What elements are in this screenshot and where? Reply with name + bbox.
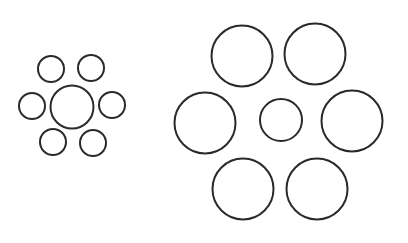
center-circle [51, 86, 94, 129]
surround-circle [38, 56, 64, 82]
large-surround-group [175, 24, 383, 220]
surround-circle [40, 129, 66, 155]
surround-circle [213, 159, 274, 220]
illusion-svg [0, 0, 408, 243]
ebbinghaus-illusion-figure [0, 0, 408, 243]
surround-circle [19, 93, 45, 119]
surround-circle [80, 130, 106, 156]
surround-circle [78, 55, 104, 81]
surround-circle [99, 92, 125, 118]
surround-circle [322, 91, 383, 152]
center-circle [260, 99, 302, 141]
small-surround-group [19, 55, 125, 156]
surround-circle [285, 24, 346, 85]
surround-circle [287, 159, 348, 220]
surround-circle [175, 93, 236, 154]
surround-circle [212, 26, 273, 87]
